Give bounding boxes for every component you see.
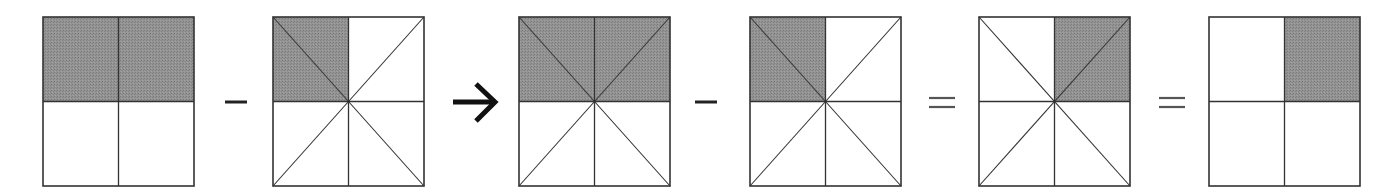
square-4 [750, 17, 901, 186]
shaded-region-top-right [119, 17, 195, 102]
diagram-canvas [0, 0, 1398, 196]
square-3 [519, 17, 670, 186]
square-2 [273, 17, 424, 186]
equals-1-equals-icon [929, 98, 955, 107]
arrow-1-arrow-right-icon [453, 84, 495, 121]
square-5 [979, 17, 1130, 186]
square-1 [43, 17, 194, 186]
equals-2-equals-icon [1159, 98, 1185, 107]
shaded-region-top-left [43, 17, 119, 102]
square-6 [1209, 17, 1360, 186]
fraction-diagram [0, 0, 1398, 196]
shaded-region-top-right [1285, 17, 1361, 102]
operators-layer [225, 84, 1185, 121]
